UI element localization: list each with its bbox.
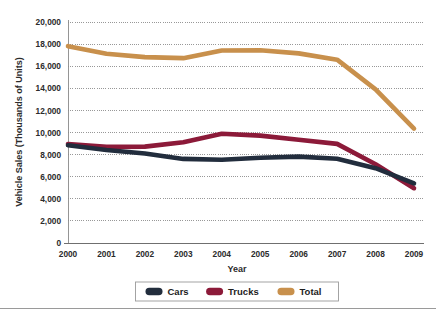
y-tick-label: 14,000 [36,83,62,93]
y-tick-label: 4,000 [40,194,61,204]
x-tick-label: 2007 [328,249,347,259]
x-tick-label: 2009 [405,249,424,259]
y-tick-label: 0 [56,238,61,248]
data-series-group [68,46,414,188]
legend-label-cars[interactable]: Cars [168,286,189,297]
x-axis-title: Year [227,264,247,274]
y-axis-title: Vehicle Sales (Thousands of Units) [14,57,24,207]
x-tick-label: 2002 [136,249,155,259]
x-tick-label: 2005 [251,249,270,259]
y-tick-label: 20,000 [36,17,62,27]
y-tick-labels-group: 02,0004,0006,0008,00010,00012,00014,0001… [36,17,62,248]
series-line-trucks [68,134,414,188]
y-tick-label: 18,000 [36,39,62,49]
series-line-total [68,46,414,128]
legend-swatch-total[interactable] [278,288,295,296]
x-tick-label: 2008 [366,249,385,259]
y-tick-label: 12,000 [36,106,62,116]
x-tick-label: 2006 [289,249,308,259]
series-line-cars [68,145,414,183]
y-tick-label: 10,000 [36,128,62,138]
legend-swatch-cars[interactable] [146,288,163,296]
chart-legend: CarsTrucksTotal [136,282,339,301]
x-tick-labels-group: 2000200120022003200420052006200720082009 [59,249,424,259]
x-tick-label: 2003 [174,249,193,259]
y-tick-label: 16,000 [36,61,62,71]
legend-swatch-trucks[interactable] [206,288,223,296]
x-tick-label: 2004 [213,249,232,259]
y-tick-label: 8,000 [40,150,61,160]
y-tick-label: 6,000 [40,172,61,182]
x-tick-label: 2000 [59,249,78,259]
line-chart: 02,0004,0006,0008,00010,00012,00014,0001… [0,0,436,318]
x-tick-label: 2001 [97,249,116,259]
legend-label-trucks[interactable]: Trucks [228,286,259,297]
y-tick-label: 2,000 [40,216,61,226]
chart-figure: 02,0004,0006,0008,00010,00012,00014,0001… [0,0,436,318]
bottom-divider [0,308,436,309]
legend-label-total[interactable]: Total [300,286,322,297]
